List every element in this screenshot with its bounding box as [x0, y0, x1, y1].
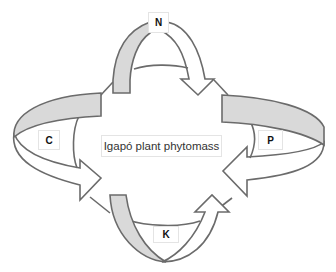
connector-line: [90, 197, 110, 213]
nutrient-label-p: P: [258, 130, 283, 150]
nutrient-cycle-diagram: N C P K Igapó plant phytomass: [0, 0, 336, 272]
nutrient-label-c: C: [38, 130, 60, 150]
center-label: Igapó plant phytomass: [101, 135, 222, 157]
connector-line: [100, 82, 113, 96]
nutrient-label-n: N: [148, 12, 169, 33]
nutrient-label-k: K: [153, 226, 179, 243]
connector-line: [214, 80, 228, 95]
